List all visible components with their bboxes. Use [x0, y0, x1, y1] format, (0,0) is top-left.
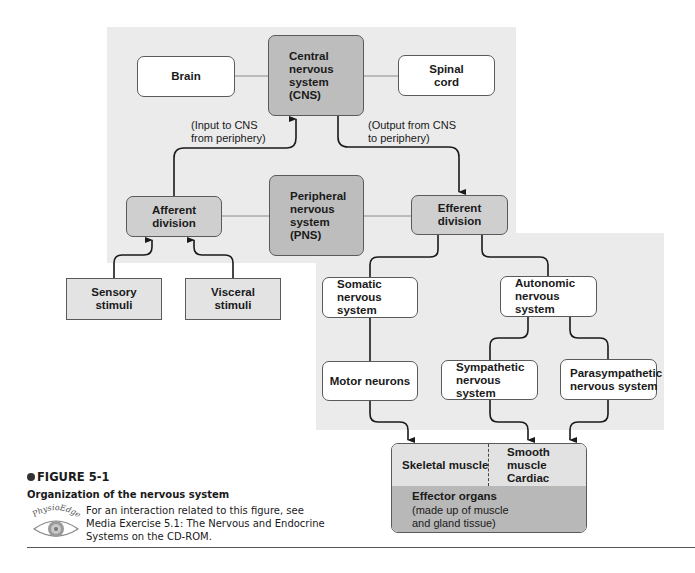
autonomic-nervous-system-box: Autonomic nervous system	[500, 276, 597, 317]
somatic-nervous-system-label: Somatic nervous system	[337, 278, 417, 317]
cns-box: Central nervous system (CNS)	[268, 35, 364, 116]
brain-label: Brain	[171, 70, 200, 83]
output-note: (Output from CNS to periphery)	[368, 119, 456, 144]
spinal-cord-label: Spinal cord	[429, 63, 464, 89]
effector-organs-section: Effector organs (made up of muscle and g…	[392, 486, 586, 533]
efferent-division-box: Efferent division	[411, 195, 508, 235]
parasympathetic-nervous-system-box: Parasympathetic nervous system	[560, 359, 657, 400]
brain-box: Brain	[137, 56, 235, 97]
parasympathetic-nervous-system-label: Parasympathetic nervous system	[570, 367, 662, 393]
skeletal-muscle-label: Skeletal muscle	[402, 459, 488, 472]
effector-muscle-types: Skeletal muscle Smooth muscle Cardiac mu…	[392, 444, 586, 487]
sympathetic-nervous-system-box: Sympathetic nervous system	[441, 360, 538, 400]
effector-organs-box: Skeletal muscle Smooth muscle Cardiac mu…	[391, 443, 587, 533]
autonomic-nervous-system-label: Autonomic nervous system	[515, 277, 596, 316]
spinal-cord-box: Spinal cord	[398, 55, 495, 96]
sympathetic-nervous-system-label: Sympathetic nervous system	[456, 361, 537, 400]
effector-organs-subtitle: (made up of muscle and gland tissue)	[412, 504, 509, 529]
bullet-icon	[27, 473, 35, 481]
input-note: (Input to CNS from periphery)	[191, 119, 266, 144]
visceral-stimuli-label: Visceral stimuli	[211, 286, 255, 312]
sensory-stimuli-box: Sensory stimuli	[66, 278, 162, 320]
figure-title: Organization of the nervous system	[27, 489, 229, 500]
afferent-division-label: Afferent division	[152, 204, 196, 230]
effector-organs-title: Effector organs	[412, 490, 497, 502]
sensory-stimuli-label: Sensory stimuli	[91, 286, 136, 312]
figure-label: FIGURE 5-1	[27, 470, 109, 484]
efferent-division-label: Efferent division	[438, 202, 481, 228]
somatic-nervous-system-box: Somatic nervous system	[322, 277, 418, 318]
motor-neurons-label: Motor neurons	[330, 375, 411, 388]
caption-rule	[27, 547, 695, 548]
visceral-stimuli-box: Visceral stimuli	[185, 278, 281, 320]
pns-label: Peripheral nervous system (PNS)	[290, 190, 346, 242]
effector-divider	[488, 444, 489, 486]
pns-box: Peripheral nervous system (PNS)	[269, 175, 364, 256]
media-exercise-text: For an interaction related to this figur…	[86, 504, 325, 543]
physioedge-eye-icon[interactable]: PhysioEdge	[28, 503, 84, 543]
motor-neurons-box: Motor neurons	[322, 361, 418, 401]
svg-text:PhysioEdge: PhysioEdge	[30, 503, 83, 520]
afferent-division-box: Afferent division	[126, 196, 222, 237]
cns-label: Central nervous system (CNS)	[289, 50, 334, 102]
